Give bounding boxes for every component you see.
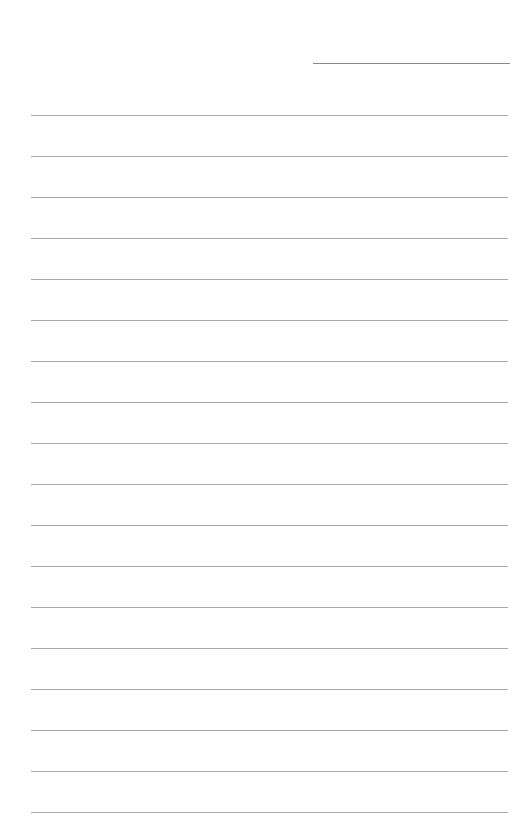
- ruled-line: [31, 279, 508, 280]
- ruled-line: [31, 443, 508, 444]
- ruled-line: [31, 566, 508, 567]
- ruled-line: [31, 320, 508, 321]
- ruled-line: [31, 771, 508, 772]
- ruled-line: [31, 402, 508, 403]
- ruled-line: [31, 197, 508, 198]
- ruled-line: [31, 361, 508, 362]
- ruled-line: [31, 812, 508, 813]
- ruled-line: [31, 115, 508, 116]
- lined-page: [0, 0, 527, 825]
- ruled-line: [31, 238, 508, 239]
- ruled-line: [31, 525, 508, 526]
- date-header-line: [313, 63, 510, 64]
- ruled-line: [31, 730, 508, 731]
- ruled-line: [31, 156, 508, 157]
- ruled-line: [31, 648, 508, 649]
- ruled-line: [31, 607, 508, 608]
- ruled-line: [31, 484, 508, 485]
- ruled-line: [31, 689, 508, 690]
